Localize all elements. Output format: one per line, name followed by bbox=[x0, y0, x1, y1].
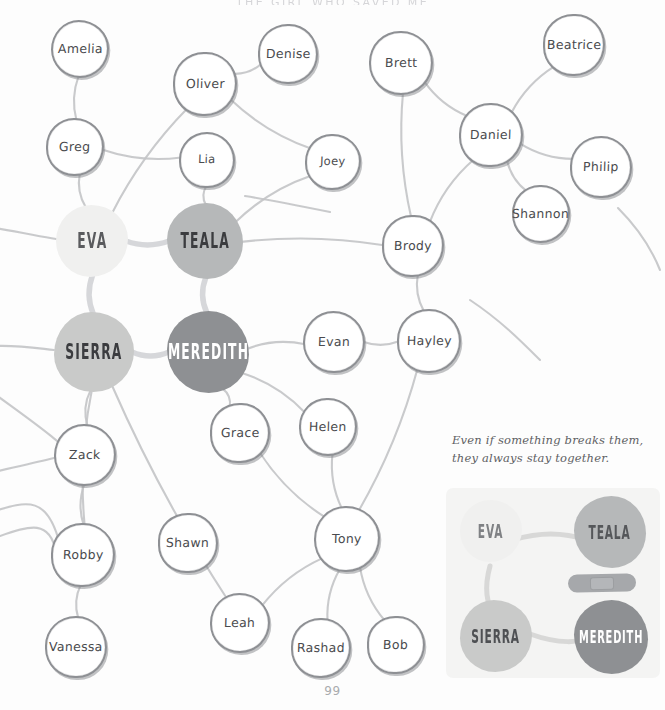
network-edge bbox=[401, 93, 411, 217]
node-label: Zack bbox=[69, 449, 101, 462]
network-edge bbox=[359, 369, 418, 511]
node-label: Oliver bbox=[185, 78, 224, 91]
network-edge bbox=[203, 277, 207, 313]
node-label: Helen bbox=[309, 421, 347, 434]
network-edge bbox=[424, 82, 467, 117]
network-edge bbox=[247, 342, 305, 349]
node-meredith[interactable]: MEREDITH bbox=[167, 311, 249, 393]
node-label: EVA bbox=[77, 230, 107, 252]
node-sierra[interactable]: SIERRA bbox=[54, 312, 134, 392]
network-edge bbox=[332, 454, 342, 509]
node-amelia[interactable]: Amelia bbox=[51, 20, 109, 78]
network-edge bbox=[507, 160, 527, 191]
network-edge bbox=[89, 275, 93, 314]
node-brody[interactable]: Brody bbox=[382, 215, 444, 277]
node-oliver[interactable]: Oliver bbox=[173, 52, 237, 116]
network-edge bbox=[262, 558, 323, 606]
node-label: Daniel bbox=[470, 129, 512, 142]
node-label: Lia bbox=[198, 154, 216, 166]
node-shawn[interactable]: Shawn bbox=[158, 513, 218, 573]
network-edge bbox=[102, 150, 181, 159]
network-edge bbox=[520, 143, 573, 159]
node-robby[interactable]: Robby bbox=[51, 523, 115, 587]
book-page: THE GIRL WHO SAVED ME EVATEALASIERRAMERE… bbox=[0, 0, 665, 710]
node-evan[interactable]: Evan bbox=[303, 311, 365, 373]
node-teala[interactable]: TEALA bbox=[167, 203, 243, 279]
node-label: Tony bbox=[332, 533, 362, 546]
node-label: Brody bbox=[394, 240, 432, 253]
node-bob[interactable]: Bob bbox=[367, 616, 425, 674]
network-edge bbox=[430, 160, 474, 223]
node-label: Denise bbox=[265, 48, 310, 61]
network-edge bbox=[417, 275, 424, 312]
node-daniel[interactable]: Daniel bbox=[459, 103, 523, 167]
network-edge bbox=[112, 108, 188, 213]
node-label: Rashad bbox=[297, 642, 345, 655]
node-label: Amelia bbox=[57, 43, 102, 56]
inset-node-label: TEALA bbox=[589, 521, 631, 543]
network-edge bbox=[360, 567, 385, 620]
inset-node-sierra[interactable]: SIERRA bbox=[460, 600, 532, 672]
node-label: SIERRA bbox=[65, 341, 122, 363]
node-leah[interactable]: Leah bbox=[210, 593, 270, 653]
network-edge bbox=[79, 174, 86, 208]
node-label: Philip bbox=[583, 161, 619, 174]
node-helen[interactable]: Helen bbox=[299, 398, 357, 456]
node-label: Shawn bbox=[166, 537, 210, 550]
network-edge bbox=[618, 208, 660, 270]
network-edge bbox=[363, 341, 399, 345]
network-edge bbox=[132, 352, 169, 356]
node-label: Beatrice bbox=[547, 39, 602, 52]
network-edge bbox=[511, 66, 554, 113]
network-edge bbox=[76, 585, 81, 618]
node-brett[interactable]: Brett bbox=[369, 31, 433, 95]
network-edge bbox=[470, 300, 540, 360]
node-zack[interactable]: Zack bbox=[54, 424, 116, 486]
node-philip[interactable]: Philip bbox=[570, 136, 632, 198]
network-edge bbox=[74, 76, 79, 120]
bandage-pad bbox=[590, 576, 614, 589]
bandage-icon bbox=[568, 573, 636, 592]
node-label: Leah bbox=[224, 617, 256, 630]
network-edge bbox=[260, 453, 325, 518]
node-rashad[interactable]: Rashad bbox=[291, 618, 351, 678]
node-label: Joey bbox=[320, 156, 346, 168]
node-label: Vanessa bbox=[49, 641, 103, 654]
node-vanessa[interactable]: Vanessa bbox=[45, 616, 107, 678]
node-label: Brett bbox=[385, 57, 418, 70]
node-label: Bob bbox=[383, 639, 408, 652]
caption-line-2: they always stay together. bbox=[452, 450, 652, 468]
network-edge bbox=[241, 238, 384, 245]
node-label: MEREDITH bbox=[167, 341, 248, 363]
node-shannon[interactable]: Shannon bbox=[512, 185, 570, 243]
network-edge bbox=[236, 176, 311, 222]
inset-node-meredith[interactable]: MEREDITH bbox=[574, 600, 648, 674]
inset-node-teala[interactable]: TEALA bbox=[574, 496, 646, 568]
caption-line-1: Even if something breaks them, bbox=[452, 432, 652, 450]
network-edge bbox=[126, 241, 169, 245]
inset-node-label: EVA bbox=[478, 520, 504, 542]
network-edge bbox=[231, 100, 311, 149]
inset-node-label: MEREDITH bbox=[579, 627, 643, 647]
node-denise[interactable]: Denise bbox=[258, 24, 318, 84]
node-label: TEALA bbox=[180, 230, 229, 252]
inset-node-label: SIERRA bbox=[472, 625, 521, 647]
node-label: Grace bbox=[221, 427, 260, 440]
caption: Even if something breaks them, they alwa… bbox=[452, 432, 652, 468]
network-edge bbox=[0, 458, 54, 472]
inset-panel: EVATEALASIERRAMEREDITH bbox=[446, 488, 660, 678]
node-label: Greg bbox=[59, 141, 91, 154]
node-hayley[interactable]: Hayley bbox=[397, 309, 461, 373]
node-grace[interactable]: Grace bbox=[210, 403, 270, 463]
node-lia[interactable]: Lia bbox=[179, 132, 235, 188]
network-edge bbox=[327, 569, 339, 621]
node-label: Evan bbox=[318, 336, 351, 349]
network-edge bbox=[0, 528, 56, 552]
node-label: Hayley bbox=[406, 335, 451, 348]
node-beatrice[interactable]: Beatrice bbox=[543, 14, 605, 76]
node-greg[interactable]: Greg bbox=[46, 118, 104, 176]
node-label: Robby bbox=[63, 549, 104, 562]
page-number: 99 bbox=[0, 684, 665, 698]
network-edge bbox=[233, 64, 262, 74]
network-edge bbox=[0, 228, 56, 239]
